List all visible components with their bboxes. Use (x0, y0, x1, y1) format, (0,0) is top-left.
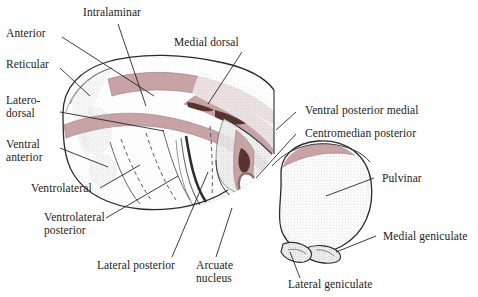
leader-arcuate-nucleus (216, 208, 232, 257)
label-ventral-anterior-line1: Ventral (6, 138, 40, 151)
label-ventrolateral-posterior-line2: posterior (44, 224, 86, 237)
label-arcuate-nucleus-line2: nucleus (196, 272, 232, 285)
label-medial-dorsal: Medial dorsal (174, 36, 239, 49)
label-medial-geniculate: Medial geniculate (383, 230, 467, 243)
thalamus-illustration (0, 0, 478, 297)
leader-ventral-posterior-medial (276, 112, 296, 130)
thalamus-figure: Intralaminar Anterior Medial dorsal Reti… (0, 0, 478, 297)
label-arcuate-nucleus-line1: Arcuate (196, 259, 233, 272)
label-laterodorsal-line2: dorsal (6, 107, 35, 120)
label-ventrolateral-posterior-line1: Ventrolateral (44, 211, 105, 224)
label-pulvinar: Pulvinar (382, 172, 422, 185)
label-lateral-posterior: Lateral posterior (97, 259, 175, 272)
label-ventral-posterior-medial: Ventral posterior medial (305, 104, 419, 117)
label-ventral-anterior-line2: anterior (6, 151, 43, 164)
label-intralaminar: Intralaminar (83, 6, 141, 19)
label-reticular: Reticular (6, 58, 49, 71)
label-anterior: Anterior (6, 27, 46, 40)
label-ventrolateral: Ventrolateral (31, 182, 92, 195)
label-laterodorsal-line1: Latero- (6, 94, 41, 107)
label-lateral-geniculate: Lateral geniculate (288, 278, 372, 291)
label-centromedian-posterior: Centromedian posterior (305, 127, 416, 140)
ventral-anterior-patch (89, 154, 117, 186)
